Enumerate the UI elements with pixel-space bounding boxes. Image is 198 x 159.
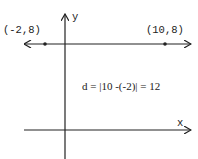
point-label-neg2-8: (-2,8): [3, 24, 41, 36]
point-10-8: [163, 42, 167, 46]
point-label-10-8: (10,8): [146, 24, 184, 36]
y-axis-label: y: [72, 11, 78, 23]
x-axis-label: x: [177, 117, 183, 129]
point-neg2-8: [43, 42, 47, 46]
distance-formula: d = |10 -(-2)| = 12: [82, 80, 160, 93]
coordinate-diagram: y (-2,8) (10,8) d = |10 -(-2)| = 12 x: [0, 0, 198, 159]
